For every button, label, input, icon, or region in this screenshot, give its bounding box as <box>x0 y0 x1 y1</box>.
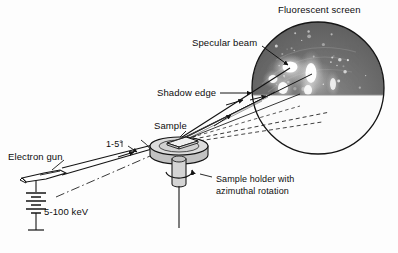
screen-speckle <box>276 84 277 85</box>
screen-speckle <box>338 58 342 62</box>
label-specular-beam: Specular beam <box>192 37 257 48</box>
screen-speckle <box>313 56 315 58</box>
screen-speckle <box>278 65 279 66</box>
label-sample: Sample <box>154 120 187 131</box>
label-shadow-edge: Shadow edge <box>157 87 216 98</box>
screen-speckle <box>307 30 309 32</box>
screen-speckle <box>333 55 335 57</box>
sample-holder <box>150 136 208 228</box>
screen-speckle <box>347 59 349 61</box>
screen-speckle <box>281 53 283 55</box>
label-incidence-angle: 1-5° <box>106 139 123 150</box>
screen-speckle <box>331 56 333 58</box>
screen-speckle <box>343 65 345 67</box>
screen-speckle <box>293 87 296 90</box>
screen-speckle <box>331 33 333 35</box>
screen-speckle <box>286 48 287 49</box>
electron-gun <box>20 170 66 192</box>
screen-speckle <box>337 79 340 82</box>
diffraction-spot <box>304 85 312 95</box>
label-electron-gun: Electron gun <box>8 151 63 162</box>
screen-speckle <box>330 61 332 63</box>
screen-speckle <box>301 87 305 91</box>
diffraction-spot <box>330 78 336 90</box>
screen-speckle <box>343 70 346 73</box>
screen-speckle <box>275 44 278 47</box>
screen-speckle <box>323 84 324 85</box>
screen-speckle <box>301 40 302 41</box>
screen-speckle <box>294 32 296 34</box>
screen-speckle <box>307 34 311 38</box>
screen-speckle <box>291 47 293 49</box>
fluorescent-screen <box>252 22 384 154</box>
screen-speckle <box>365 75 366 76</box>
screen-speckle <box>287 81 290 84</box>
holder-shaft <box>172 159 186 187</box>
screen-speckle <box>283 75 285 77</box>
battery-symbol <box>26 193 46 230</box>
label-fluorescent-screen: Fluorescent screen <box>278 4 361 15</box>
rheed-diagram: Fluorescent screen Specular beam Shadow … <box>0 0 398 253</box>
screen-speckle <box>322 43 325 46</box>
leader-sample-holder <box>200 174 212 177</box>
screen-speckle <box>294 50 295 51</box>
label-beam-energy: 5-100 keV <box>44 206 88 217</box>
label-sample-holder-line1: Sample holder with <box>216 174 294 184</box>
label-sample-holder-line2: azimuthal rotation <box>216 186 289 196</box>
screen-speckle <box>359 87 361 89</box>
label-sample-holder: Sample holder with azimuthal rotation <box>216 173 294 197</box>
screen-speckle <box>336 65 338 67</box>
